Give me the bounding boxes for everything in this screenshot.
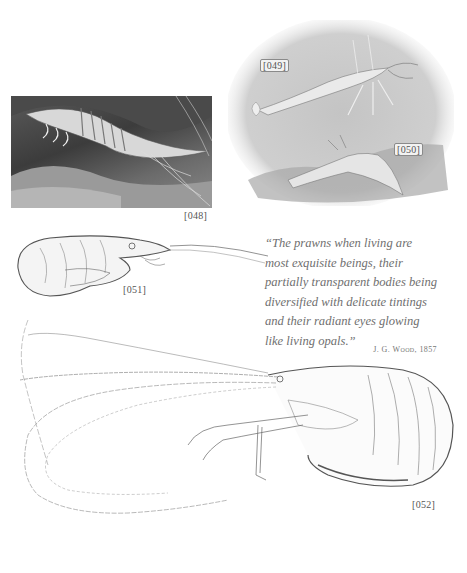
plate-049-050-engraving bbox=[228, 20, 454, 206]
quote-line: partially transparent bodies being bbox=[265, 273, 440, 293]
quote-line: “The prawns when living are bbox=[265, 234, 440, 254]
plate-label-050: [050] bbox=[394, 143, 423, 156]
quote-line: diversified with delicate tintings bbox=[265, 293, 440, 313]
shrimp-illustration-icon bbox=[11, 96, 212, 208]
quote-line: most exquisite beings, their bbox=[265, 254, 440, 274]
plate-label-051: [051] bbox=[123, 284, 146, 295]
plate-label-048: [048] bbox=[184, 210, 207, 221]
prawns-underwater-illustration-icon bbox=[228, 20, 454, 206]
plate-label-049: [049] bbox=[260, 59, 289, 72]
plate-052-line-drawing bbox=[8, 315, 458, 545]
plate-048-engraving bbox=[11, 96, 212, 208]
plate-label-052: [052] bbox=[412, 499, 435, 510]
long-antennae-prawn-illustration-icon bbox=[8, 315, 458, 545]
